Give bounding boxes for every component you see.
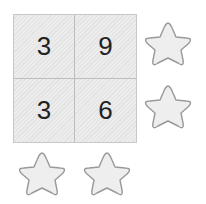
grid-cell[interactable]: 3 bbox=[14, 79, 75, 143]
star-icon[interactable] bbox=[143, 20, 193, 68]
star-icon[interactable] bbox=[82, 150, 132, 198]
star-icon[interactable] bbox=[143, 83, 193, 131]
grid-cell[interactable]: 6 bbox=[75, 79, 136, 143]
grid-cell[interactable]: 9 bbox=[75, 15, 136, 79]
grid-cell[interactable]: 3 bbox=[14, 15, 75, 79]
star-icon[interactable] bbox=[17, 150, 67, 198]
number-grid: 3 9 3 6 bbox=[13, 14, 137, 143]
